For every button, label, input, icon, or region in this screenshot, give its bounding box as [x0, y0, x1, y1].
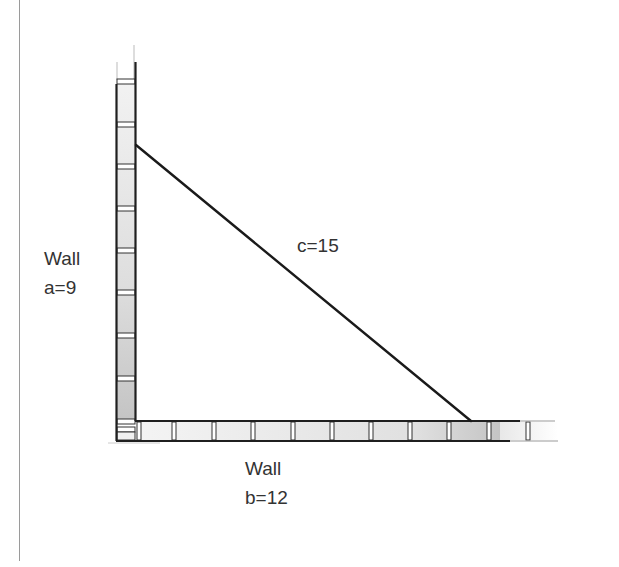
wall-b-value: b=12: [245, 483, 288, 512]
wall-a-title: Wall: [44, 244, 80, 273]
hypotenuse-label: c=15: [297, 231, 339, 260]
wall-b-horizontal: [108, 421, 558, 443]
hypotenuse-line: [136, 145, 471, 421]
wall-a-vertical: [117, 45, 136, 441]
wall-b-title: Wall: [245, 454, 288, 483]
wall-b-label: Wall b=12: [245, 454, 288, 512]
wall-a-value: a=9: [44, 273, 80, 302]
right-triangle-diagram: [0, 0, 619, 567]
wall-a-label: Wall a=9: [44, 244, 80, 302]
